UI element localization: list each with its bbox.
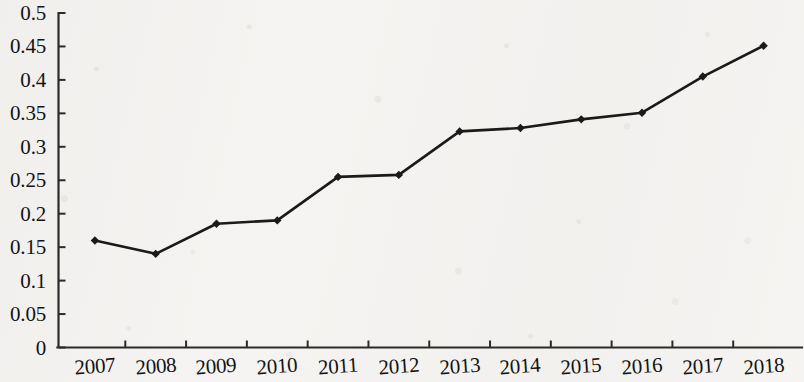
x-axis-tick-label: 2007 (74, 352, 116, 380)
x-axis-tick-label: 2011 (317, 352, 359, 380)
x-axis-tick-label: 2009 (195, 352, 237, 380)
x-axis-tick-label: 2018 (742, 352, 784, 380)
line-chart: 00.050.10.150.20.250.30.350.40.450.5 200… (0, 0, 804, 382)
x-axis-tick-labels: 2007200820092010201120122013201420152016… (0, 0, 804, 382)
x-axis-tick-label: 2012 (378, 352, 420, 380)
x-axis-tick-label: 2013 (438, 352, 480, 380)
x-axis-tick-label: 2016 (621, 352, 663, 380)
x-axis-tick-label: 2014 (499, 352, 541, 380)
x-axis-tick-label: 2015 (560, 352, 602, 380)
x-axis-tick-label: 2017 (682, 352, 724, 380)
x-axis-tick-label: 2010 (256, 352, 298, 380)
x-axis-tick-label: 2008 (134, 352, 176, 380)
